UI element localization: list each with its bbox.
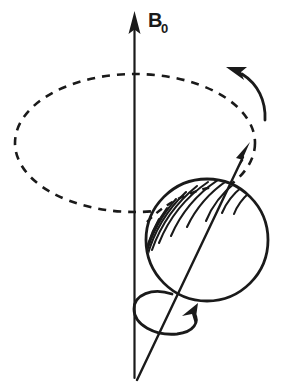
precession-arrow-head [226,67,247,80]
precession-direction-arrow [226,67,265,120]
field-axis-label-subscript: 0 [161,21,168,36]
spinning-nucleus-sphere [143,179,268,301]
spin-precession-diagram: B 0 [0,0,281,387]
precession-arrow-shaft [242,74,265,120]
spin-precession-figure: B 0 [0,0,281,387]
magnetic-moment-arrowhead [236,142,250,167]
field-axis-label: B 0 [148,9,168,36]
